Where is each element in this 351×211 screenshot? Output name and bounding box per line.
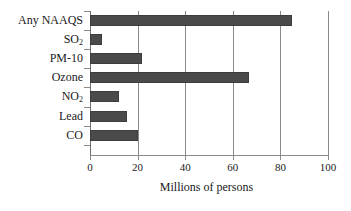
y-axis-label-lead: Lead xyxy=(0,110,83,123)
y-axis-tick xyxy=(84,49,90,50)
y-axis-tick xyxy=(84,11,90,12)
y-axis-tick xyxy=(84,87,90,88)
bar-so2 xyxy=(90,34,102,45)
x-axis-line xyxy=(90,155,329,156)
y-axis-label-so2: SO2 xyxy=(0,33,83,47)
bar-lead xyxy=(90,111,127,122)
x-axis-tick-label-0: 0 xyxy=(70,161,110,174)
bar-no2 xyxy=(90,91,119,102)
x-axis-tick-label-40: 40 xyxy=(165,161,205,174)
x-axis-tick-label-80: 80 xyxy=(260,161,300,174)
y-axis-label-pm-10: PM-10 xyxy=(0,52,83,65)
x-axis-tick xyxy=(280,155,281,160)
gridline-100 xyxy=(328,11,329,155)
bar-any-naaqs xyxy=(90,15,292,26)
y-axis-label-any-naaqs: Any NAAQS xyxy=(0,14,83,27)
x-axis-tick xyxy=(233,155,234,160)
x-axis-title: Millions of persons xyxy=(0,180,351,195)
x-axis-tick xyxy=(138,155,139,160)
y-axis-label-co: CO xyxy=(0,129,83,142)
y-axis-tick xyxy=(84,30,90,31)
y-axis-label-ozone: Ozone xyxy=(0,71,83,84)
x-axis-tick xyxy=(90,155,91,160)
x-axis-tick-label-60: 60 xyxy=(213,161,253,174)
bar-pm-10 xyxy=(90,53,142,64)
y-axis-label-no2: NO2 xyxy=(0,90,83,104)
plot-area xyxy=(90,11,328,155)
y-axis-tick xyxy=(84,107,90,108)
x-axis-tick-label-20: 20 xyxy=(118,161,158,174)
x-axis-tick xyxy=(185,155,186,160)
bar-co xyxy=(90,130,138,141)
y-axis-tick xyxy=(84,68,90,69)
x-axis-tick-label-100: 100 xyxy=(308,161,348,174)
y-axis-tick xyxy=(84,126,90,127)
gridline-80 xyxy=(280,11,281,155)
chart-figure: Any NAAQS SO2 PM-10 Ozone NO2 Lead CO 0 … xyxy=(0,0,351,211)
x-axis-tick xyxy=(328,155,329,160)
bar-ozone xyxy=(90,72,249,83)
y-axis-tick xyxy=(84,145,90,146)
